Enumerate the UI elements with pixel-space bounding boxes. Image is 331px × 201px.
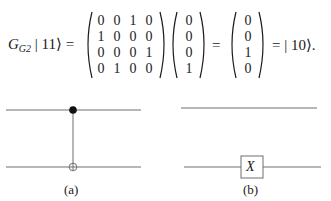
x-gate-label: X bbox=[246, 160, 255, 174]
control-dot-icon bbox=[69, 106, 77, 114]
circuit-a bbox=[6, 106, 141, 171]
caption-b: (b) bbox=[243, 182, 258, 198]
target-oplus-icon bbox=[69, 163, 77, 171]
circuit-diagrams bbox=[0, 0, 331, 201]
caption-a: (a) bbox=[64, 182, 78, 198]
